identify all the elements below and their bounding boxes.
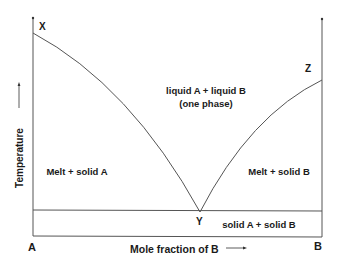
y-axis-title: Temperature [14, 128, 25, 188]
eutectic-line [33, 210, 322, 211]
mole-fraction-arrow-head [243, 247, 247, 250]
left-axis-tip [32, 17, 34, 19]
point-x-label: X [39, 22, 46, 32]
point-z-label: Z [305, 64, 311, 74]
liquidus-curve-a [33, 33, 200, 212]
region-liquid-label: liquid A + liquid B [166, 86, 246, 96]
temperature-arrow-head [18, 82, 21, 86]
region-liquid-sublabel: (one phase) [179, 99, 232, 109]
axis-end-a-label: A [28, 242, 36, 253]
axis-end-b-label: B [314, 241, 322, 252]
bottom-axis [33, 236, 322, 237]
x-axis-title: Mole fraction of B [130, 243, 219, 255]
region-solid-ab-label: solid A + solid B [222, 220, 295, 230]
region-melt-solid-b-label: Melt + solid B [248, 167, 310, 177]
right-axis-tip [321, 18, 323, 20]
point-y-label: Y [196, 217, 203, 227]
region-melt-solid-a-label: Melt + solid A [46, 167, 107, 177]
